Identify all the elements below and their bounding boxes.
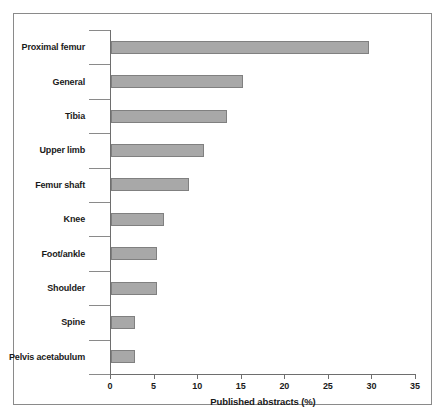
bar xyxy=(111,144,204,157)
category-label: Femur shaft xyxy=(0,180,85,190)
bar xyxy=(111,247,157,260)
category-tick xyxy=(89,168,110,169)
category-tick xyxy=(89,305,110,306)
category-tick xyxy=(89,374,110,375)
x-axis-title: Published abstracts (%) xyxy=(110,396,416,407)
category-label: Foot/ankle xyxy=(0,249,85,259)
value-tick-label: 35 xyxy=(395,381,435,391)
category-tick xyxy=(89,99,110,100)
category-tick xyxy=(89,236,110,237)
bar xyxy=(111,75,243,88)
bar xyxy=(111,282,157,295)
chart-figure: Proximal femurGeneralTibiaUpper limbFemu… xyxy=(0,0,444,419)
category-tick xyxy=(89,133,110,134)
category-tick xyxy=(89,271,110,272)
bar xyxy=(111,178,189,191)
bar xyxy=(111,213,164,226)
value-tick-label: 5 xyxy=(134,381,174,391)
category-label: Shoulder xyxy=(0,283,85,293)
bar xyxy=(111,316,135,329)
category-label: Tibia xyxy=(0,111,85,121)
bar xyxy=(111,110,227,123)
value-tick-label: 15 xyxy=(221,381,261,391)
category-label: Upper limb xyxy=(0,145,85,155)
value-tick-label: 30 xyxy=(351,381,391,391)
category-label: Proximal femur xyxy=(0,42,85,52)
value-tick xyxy=(197,374,198,379)
category-tick xyxy=(89,340,110,341)
value-tick xyxy=(371,374,372,379)
value-tick xyxy=(328,374,329,379)
category-tick xyxy=(89,64,110,65)
value-axis-line xyxy=(110,374,416,375)
value-tick-label: 0 xyxy=(90,381,130,391)
value-tick-label: 10 xyxy=(177,381,217,391)
bar xyxy=(111,41,369,54)
value-tick xyxy=(110,374,111,379)
bar xyxy=(111,350,135,363)
category-label: Knee xyxy=(0,214,85,224)
value-tick xyxy=(284,374,285,379)
value-tick xyxy=(241,374,242,379)
category-label: Pelvis acetabulum xyxy=(0,352,85,362)
value-tick-label: 25 xyxy=(308,381,348,391)
category-tick xyxy=(89,30,110,31)
category-label: General xyxy=(0,77,85,87)
category-label: Spine xyxy=(0,317,85,327)
plot-area: Proximal femurGeneralTibiaUpper limbFemu… xyxy=(0,0,444,419)
value-tick xyxy=(415,374,416,379)
category-tick xyxy=(89,202,110,203)
value-tick-label: 20 xyxy=(264,381,304,391)
value-tick xyxy=(154,374,155,379)
